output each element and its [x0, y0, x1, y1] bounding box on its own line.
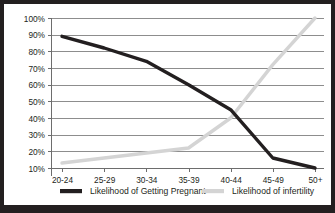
x-axis-tick-label: 45-49 [263, 175, 285, 185]
x-axis-tick-label: 35-39 [178, 175, 200, 185]
series-lines-group [62, 18, 315, 168]
x-axis-tick-label: 30-34 [136, 175, 158, 185]
y-axis-tick-label: 80% [28, 47, 45, 57]
y-axis-tick-label: 60% [28, 80, 45, 90]
chart-legend: Likelihood of Getting PregnantLikelihood… [60, 186, 315, 196]
x-axis-tick-label: 50+ [308, 175, 322, 185]
y-axis-tick-label: 100% [24, 14, 46, 24]
series-line [62, 18, 315, 163]
chart-plot-area: 10%20%30%40%50%60%70%80%90%100% 20-2425-… [4, 4, 331, 205]
gridlines-group [51, 18, 324, 176]
x-axis-labels-group: 20-2425-2930-3435-3940-4445-4950+ [52, 175, 323, 185]
y-axis-tick-label: 20% [28, 147, 45, 157]
y-axis-tick-label: 50% [28, 97, 45, 107]
y-axis-ticks-group [48, 19, 51, 169]
y-axis-tick-label: 90% [28, 30, 45, 40]
x-axis-tick-label: 40-44 [221, 175, 243, 185]
y-axis-tick-label: 10% [28, 164, 45, 174]
y-axis-tick-label: 30% [28, 130, 45, 140]
y-axis-tick-label: 40% [28, 114, 45, 124]
legend-label: Likelihood of Getting Pregnant [90, 186, 206, 196]
legend-swatch [202, 189, 224, 193]
chart-frame: 10%20%30%40%50%60%70%80%90%100% 20-2425-… [4, 4, 331, 205]
x-axis-tick-label: 20-24 [52, 175, 74, 185]
likelihood-line-chart: 10%20%30%40%50%60%70%80%90%100% 20-2425-… [4, 4, 331, 205]
legend-swatch [60, 189, 82, 193]
y-axis-labels-group: 10%20%30%40%50%60%70%80%90%100% [24, 14, 46, 174]
x-axis-tick-label: 25-29 [94, 175, 116, 185]
legend-label: Likelihood of infertility [232, 186, 315, 196]
y-axis-tick-label: 70% [28, 64, 45, 74]
